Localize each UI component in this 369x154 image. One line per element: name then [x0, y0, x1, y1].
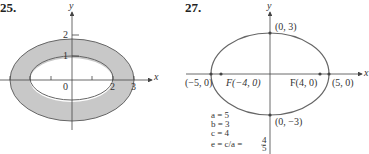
vertex-left	[209, 72, 212, 75]
focus-right	[318, 72, 321, 75]
figures-canvas: 25. x y 2 1 0 2 3 27. x y	[0, 0, 369, 154]
x-tick-3: 3	[131, 81, 136, 92]
figure-number-27: 27.	[185, 0, 201, 15]
label-focus-left: F(−4, 0)	[225, 77, 261, 89]
label-left: (−5, 0)	[185, 77, 212, 89]
y-tick-2: 2	[63, 29, 68, 40]
x-tick-2: 2	[110, 81, 115, 92]
param-e: e = c/a =	[211, 139, 242, 149]
label-bottom: (0, −3)	[275, 116, 302, 128]
vertex-top	[268, 31, 271, 34]
param-e-denominator: 5	[262, 143, 267, 153]
label-top: (0, 3)	[275, 21, 297, 33]
figure-number-25: 25.	[0, 0, 16, 15]
inner-ellipse	[30, 56, 113, 100]
x-axis-label: x	[153, 71, 159, 82]
x-axis-label: x	[363, 67, 369, 78]
vertex-right	[327, 72, 330, 75]
vertex-bottom	[268, 113, 271, 116]
label-right: (5, 0)	[332, 77, 354, 89]
y-axis-label: y	[266, 0, 272, 11]
figure-27: 27. x y (0, 3) (0, −3) (−5, 0) (5, 0) F(…	[185, 0, 369, 154]
y-tick-1: 1	[63, 50, 68, 61]
label-focus-right: F(4, 0)	[290, 77, 317, 89]
focus-left	[219, 72, 222, 75]
param-c: c = 4	[211, 128, 230, 138]
x-tick-0: 0	[63, 81, 68, 92]
y-axis-label: y	[68, 0, 74, 11]
figure-25: 25. x y 2 1 0 2 3	[0, 0, 159, 130]
